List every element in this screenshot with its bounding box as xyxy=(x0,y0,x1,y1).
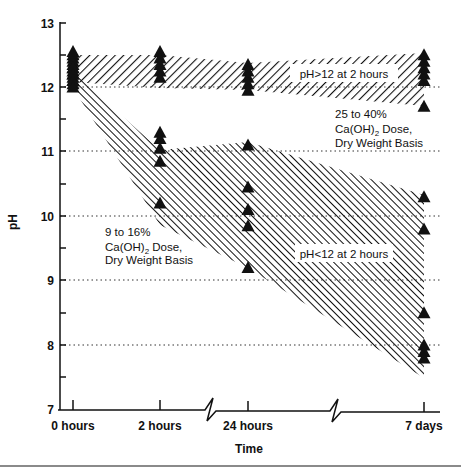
y-tick-12: 12 xyxy=(41,81,55,95)
y-tick-8: 8 xyxy=(47,339,54,353)
y-tick-labels: 13 12 11 10 9 8 7 xyxy=(41,17,55,417)
x-tick-7-days: 7 days xyxy=(405,419,443,433)
svg-text:Dry Weight Basis: Dry Weight Basis xyxy=(105,254,193,266)
y-axis-title: pH xyxy=(6,214,20,230)
bottom-divider xyxy=(0,465,461,467)
upper-band-label: pH>12 at 2 hours xyxy=(300,68,389,80)
x-axis-title: Time xyxy=(235,442,263,456)
y-tick-13: 13 xyxy=(41,17,55,31)
ph-time-chart: 13 12 11 10 9 8 7 0 hours 2 hours 24 hou… xyxy=(0,0,461,476)
svg-text:Dry Weight Basis: Dry Weight Basis xyxy=(335,137,423,149)
lower-band-label: pH<12 at 2 hours xyxy=(300,248,389,260)
svg-text:25 to 40%: 25 to 40% xyxy=(335,108,387,120)
x-tick-labels: 0 hours 2 hours 24 hours 7 days xyxy=(51,419,443,433)
x-tick-24-hours: 24 hours xyxy=(223,419,273,433)
upper-dose-label: 25 to 40% Ca(OH)2 Dose, Dry Weight Basis xyxy=(335,108,423,149)
y-tick-10: 10 xyxy=(41,210,55,224)
x-tick-2-hours: 2 hours xyxy=(138,419,182,433)
x-tick-0-hours: 0 hours xyxy=(51,419,95,433)
y-tick-7: 7 xyxy=(47,403,54,417)
y-axis xyxy=(60,22,66,410)
y-tick-11: 11 xyxy=(41,145,54,159)
svg-text:9 to 16%: 9 to 16% xyxy=(105,226,150,238)
y-tick-9: 9 xyxy=(47,274,54,288)
svg-text:Ca(OH)2 Dose,: Ca(OH)2 Dose, xyxy=(335,123,412,138)
